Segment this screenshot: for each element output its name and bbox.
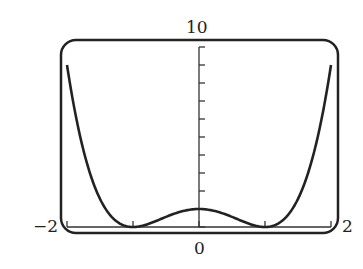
y-max-label: 10 bbox=[186, 19, 208, 36]
x-max-label: 2 bbox=[342, 218, 353, 235]
x-min-label: −2 bbox=[33, 218, 58, 235]
x-center-label: 0 bbox=[194, 240, 205, 257]
y-axis bbox=[199, 47, 205, 227]
